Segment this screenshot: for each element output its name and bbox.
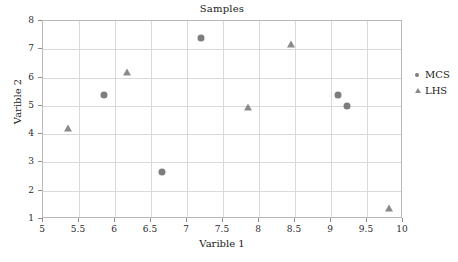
x-tick-mark	[114, 218, 115, 222]
x-tick-mark	[294, 218, 295, 222]
x-tick-mark	[186, 218, 187, 222]
legend-label: LHS	[425, 85, 447, 96]
legend-circle-icon	[413, 70, 422, 79]
y-tick-mark	[38, 20, 42, 21]
gridline-vertical	[295, 21, 296, 217]
x-tick-label: 10	[396, 224, 407, 234]
x-tick-label: 6	[111, 224, 117, 234]
x-tick-mark	[42, 218, 43, 222]
data-point-circle	[335, 91, 342, 98]
gridline-horizontal	[43, 162, 401, 163]
x-tick-label: 7.5	[215, 224, 229, 234]
gridline-vertical	[367, 21, 368, 217]
y-tick-mark	[38, 161, 42, 162]
legend: MCSLHS	[413, 66, 458, 98]
gridline-vertical	[259, 21, 260, 217]
data-point-triangle	[385, 204, 393, 211]
x-tick-mark	[366, 218, 367, 222]
data-point-triangle	[287, 40, 295, 47]
y-tick-label: 1	[8, 213, 34, 223]
x-tick-mark	[78, 218, 79, 222]
gridline-horizontal	[43, 78, 401, 79]
legend-item-mcs[interactable]: MCS	[413, 66, 458, 82]
gridline-vertical	[223, 21, 224, 217]
legend-triangle-icon	[413, 86, 422, 95]
x-axis-label: Varible 1	[42, 238, 402, 249]
gridline-vertical	[115, 21, 116, 217]
x-tick-mark	[402, 218, 403, 222]
x-tick-label: 8.5	[287, 224, 301, 234]
chart-title: Samples	[42, 3, 402, 14]
x-tick-label: 5.5	[71, 224, 85, 234]
data-point-circle	[198, 34, 205, 41]
y-tick-mark	[38, 218, 42, 219]
data-point-triangle	[123, 68, 131, 75]
data-point-circle	[158, 169, 165, 176]
x-tick-label: 7	[183, 224, 189, 234]
y-axis-label: Varible 2	[12, 52, 23, 152]
legend-marker-glyph	[415, 88, 421, 93]
gridline-vertical	[331, 21, 332, 217]
data-point-triangle	[64, 125, 72, 132]
x-tick-label: 6.5	[143, 224, 157, 234]
x-tick-mark	[150, 218, 151, 222]
data-point-triangle	[244, 104, 252, 111]
x-tick-label: 8	[255, 224, 261, 234]
legend-marker-glyph	[415, 73, 419, 77]
x-tick-mark	[258, 218, 259, 222]
legend-label: MCS	[425, 69, 450, 80]
plot-area	[42, 20, 402, 218]
legend-item-lhs[interactable]: LHS	[413, 82, 458, 98]
x-tick-mark	[330, 218, 331, 222]
gridline-vertical	[79, 21, 80, 217]
y-tick-label: 8	[8, 15, 34, 25]
x-tick-label: 9.5	[359, 224, 373, 234]
x-tick-label: 5	[39, 224, 45, 234]
scatter-plot-figure: Samples 55.566.577.588.599.510 12345678 …	[0, 0, 458, 262]
x-tick-label: 9	[327, 224, 333, 234]
gridline-horizontal	[43, 49, 401, 50]
y-tick-mark	[38, 133, 42, 134]
gridline-horizontal	[43, 191, 401, 192]
data-point-circle	[101, 91, 108, 98]
y-tick-mark	[38, 105, 42, 106]
y-tick-mark	[38, 48, 42, 49]
gridline-vertical	[151, 21, 152, 217]
y-tick-mark	[38, 190, 42, 191]
x-tick-mark	[222, 218, 223, 222]
data-point-circle	[343, 102, 350, 109]
y-tick-label: 3	[8, 156, 34, 166]
gridline-horizontal	[43, 134, 401, 135]
y-tick-mark	[38, 77, 42, 78]
gridline-vertical	[187, 21, 188, 217]
y-tick-label: 2	[8, 185, 34, 195]
